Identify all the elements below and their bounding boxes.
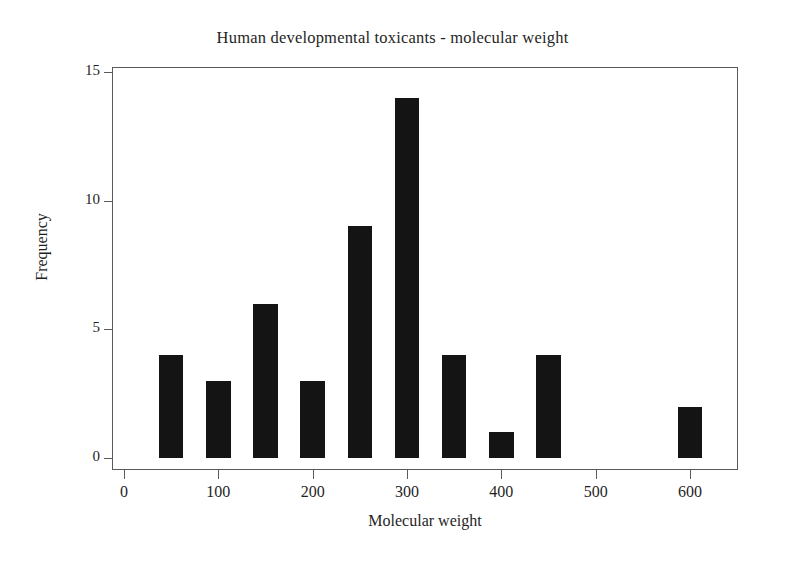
x-axis-tick	[501, 470, 502, 479]
histogram-bar	[489, 432, 514, 458]
histogram-bar	[159, 355, 184, 458]
x-axis-tick-label: 400	[471, 483, 531, 501]
histogram-bar	[395, 98, 420, 458]
x-axis-tick	[407, 470, 408, 479]
bars-layer	[112, 67, 738, 470]
chart-title: Human developmental toxicants - molecula…	[0, 28, 785, 48]
histogram-bar	[300, 381, 325, 458]
y-axis-tick-label: 0	[54, 449, 100, 464]
y-axis-tick-label: 5	[54, 320, 100, 335]
x-axis-tick-label: 100	[188, 483, 248, 501]
x-axis-tick-label: 300	[377, 483, 437, 501]
x-axis-tick	[124, 470, 125, 479]
y-axis-tick-label: 15	[54, 63, 100, 78]
histogram-bar	[206, 381, 231, 458]
x-axis-tick	[313, 470, 314, 479]
x-axis-tick-label: 500	[566, 483, 626, 501]
histogram-figure: Human developmental toxicants - molecula…	[0, 0, 785, 571]
y-axis-tick	[104, 72, 113, 73]
x-axis-title: Molecular weight	[112, 512, 738, 530]
histogram-bar	[536, 355, 561, 458]
histogram-bar	[348, 226, 373, 458]
x-axis-tick-label: 200	[283, 483, 343, 501]
histogram-bar	[253, 304, 278, 458]
x-axis-tick-label: 0	[94, 483, 154, 501]
y-axis-tick-label: 10	[54, 192, 100, 207]
x-axis-tick-label: 600	[660, 483, 720, 501]
x-axis-tick	[596, 470, 597, 479]
y-axis-tick	[104, 329, 113, 330]
histogram-bar	[442, 355, 467, 458]
y-axis-tick	[104, 458, 113, 459]
x-axis-tick	[690, 470, 691, 479]
x-axis-tick	[218, 470, 219, 479]
histogram-bar	[678, 407, 703, 458]
y-axis-tick	[104, 201, 113, 202]
